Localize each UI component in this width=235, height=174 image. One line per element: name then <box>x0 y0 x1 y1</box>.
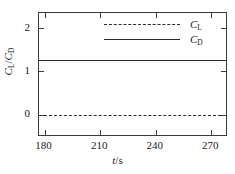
chart-figure: CL CD 0 1 2 180 210 240 270 CL/CD t/s <box>0 0 235 174</box>
x-tick-label-210: 210 <box>91 140 108 151</box>
x-tick-labels: 180 210 240 270 <box>0 0 235 174</box>
x-axis-label: t/s <box>0 155 235 166</box>
y-axis-label-den-sub: D <box>7 48 16 53</box>
y-axis-label-num-sub: L <box>7 63 16 68</box>
x-tick-label-270: 270 <box>202 140 219 151</box>
y-axis-label-num-var: C <box>2 68 14 75</box>
x-tick-label-180: 180 <box>35 140 52 151</box>
x-axis-label-rest: /s <box>115 154 122 166</box>
y-axis-label: CL/CD <box>3 32 14 92</box>
y-axis-label-den-var: C <box>2 53 14 60</box>
x-tick-label-240: 240 <box>146 140 163 151</box>
